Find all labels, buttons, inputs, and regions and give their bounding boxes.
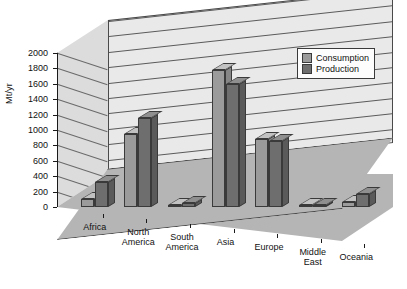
y-tick-label: 1400 bbox=[14, 94, 48, 104]
bar-front-face bbox=[313, 205, 326, 207]
gridline bbox=[109, 6, 392, 38]
bar-side-face bbox=[239, 80, 246, 207]
y-tick-mark bbox=[53, 99, 57, 100]
y-tick-mark bbox=[53, 68, 57, 69]
bar-front-face bbox=[124, 134, 137, 207]
bar-p-5 bbox=[313, 205, 326, 207]
bar-c-3 bbox=[212, 70, 225, 207]
legend-swatch-icon bbox=[302, 64, 312, 74]
bar-front-face bbox=[138, 118, 151, 207]
bar-c-6 bbox=[342, 202, 355, 207]
left-wall-gridline bbox=[58, 130, 108, 147]
bar-p-1 bbox=[138, 118, 151, 207]
y-tick-label: 1000 bbox=[14, 125, 48, 135]
bar-front-face bbox=[212, 70, 225, 207]
bar-front-face bbox=[226, 84, 239, 207]
bar-side-face bbox=[282, 137, 289, 207]
legend-label: Production bbox=[316, 64, 359, 74]
bar-front-face bbox=[81, 199, 94, 207]
left-wall-gridline bbox=[58, 161, 108, 178]
bar-c-1 bbox=[124, 134, 137, 207]
x-tick-mark bbox=[190, 224, 191, 228]
bar-chart-3d: Mt/yr 2000180016001400120010008006004002… bbox=[0, 0, 407, 289]
x-tick-mark bbox=[321, 239, 322, 243]
bar-front-face bbox=[269, 141, 282, 207]
left-wall-gridline bbox=[58, 99, 108, 116]
y-tick-mark bbox=[53, 145, 57, 146]
y-tick-label: 1600 bbox=[14, 79, 48, 89]
y-axis-ticks: 2000180016001400120010008006004002000 bbox=[0, 0, 48, 289]
bar-p-6 bbox=[356, 194, 369, 207]
bar-p-0 bbox=[95, 182, 108, 207]
bar-p-2 bbox=[182, 203, 195, 207]
left-wall-gridline bbox=[58, 145, 108, 162]
y-tick-label: 800 bbox=[14, 140, 48, 150]
y-axis-line bbox=[57, 53, 58, 207]
y-tick-mark bbox=[53, 207, 57, 208]
x-tick-mark bbox=[277, 234, 278, 238]
bar-c-0 bbox=[81, 199, 94, 207]
y-tick-mark bbox=[53, 130, 57, 131]
y-tick-mark bbox=[53, 115, 57, 116]
y-tick-label: 200 bbox=[14, 187, 48, 197]
bar-p-3 bbox=[226, 84, 239, 207]
left-wall-gridline bbox=[58, 68, 108, 85]
legend-label: Consumption bbox=[316, 53, 369, 63]
bar-c-5 bbox=[299, 205, 312, 207]
bar-c-4 bbox=[255, 139, 268, 207]
y-tick-label: 400 bbox=[14, 171, 48, 181]
y-tick-label: 1200 bbox=[14, 110, 48, 120]
legend-item-0[interactable]: Consumption bbox=[302, 53, 369, 63]
bar-front-face bbox=[342, 202, 355, 207]
bar-front-face bbox=[299, 205, 312, 207]
x-tick-mark bbox=[103, 214, 104, 218]
x-tick-mark bbox=[364, 244, 365, 248]
bar-front-face bbox=[255, 139, 268, 207]
bar-side-face bbox=[151, 114, 158, 207]
legend-swatch-icon bbox=[302, 53, 312, 63]
left-wall-gridline bbox=[58, 115, 108, 132]
chart-legend: ConsumptionProduction bbox=[297, 48, 375, 79]
y-tick-mark bbox=[53, 161, 57, 162]
y-tick-mark bbox=[53, 176, 57, 177]
y-tick-label: 1800 bbox=[14, 63, 48, 73]
y-tick-mark bbox=[53, 192, 57, 193]
legend-item-1[interactable]: Production bbox=[302, 64, 369, 74]
x-tick-mark bbox=[234, 229, 235, 233]
bar-side-face bbox=[108, 177, 115, 207]
x-tick-mark bbox=[146, 219, 147, 223]
bar-p-4 bbox=[269, 141, 282, 207]
y-tick-mark bbox=[53, 53, 57, 54]
bar-front-face bbox=[95, 182, 108, 207]
y-tick-label: 2000 bbox=[14, 48, 48, 58]
x-tick-label: Oceania bbox=[328, 252, 384, 262]
left-wall-gridline bbox=[58, 84, 108, 101]
y-tick-label: 600 bbox=[14, 156, 48, 166]
bar-front-face bbox=[168, 205, 181, 207]
bar-front-face bbox=[182, 203, 195, 207]
y-tick-mark bbox=[53, 84, 57, 85]
y-tick-label: 0 bbox=[14, 202, 48, 212]
bar-front-face bbox=[356, 194, 369, 207]
bar-c-2 bbox=[168, 205, 181, 207]
left-wall-gridline bbox=[58, 53, 108, 70]
gridline bbox=[109, 83, 392, 115]
